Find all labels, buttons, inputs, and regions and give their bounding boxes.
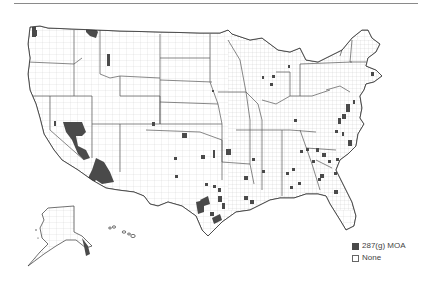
legend-item-moa: 287(g) MOA bbox=[352, 240, 406, 252]
legend-item-none: None bbox=[352, 252, 406, 264]
legend-label-moa: 287(g) MOA bbox=[362, 240, 406, 252]
legend-swatch-none bbox=[352, 255, 359, 262]
map-legend: 287(g) MOA None bbox=[352, 240, 406, 264]
legend-label-none: None bbox=[362, 252, 381, 264]
legend-swatch-moa bbox=[352, 243, 359, 250]
hawaii bbox=[109, 226, 136, 238]
alaska bbox=[28, 206, 92, 266]
